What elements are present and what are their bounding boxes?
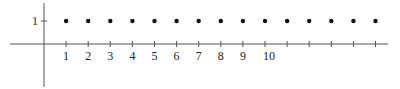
- data-point: [263, 19, 267, 23]
- x-tick-label: 8: [218, 49, 224, 63]
- data-point: [373, 19, 377, 23]
- x-tick-label: 10: [263, 49, 275, 63]
- data-point: [130, 19, 134, 23]
- data-point: [86, 19, 90, 23]
- data-point: [197, 19, 201, 23]
- x-tick-label: 5: [152, 49, 158, 63]
- data-point: [219, 19, 223, 23]
- x-tick-label: 6: [174, 49, 180, 63]
- data-point: [241, 19, 245, 23]
- data-point: [329, 19, 333, 23]
- y-tick-label: 1: [32, 14, 38, 28]
- x-tick-label: 7: [196, 49, 202, 63]
- data-point: [307, 19, 311, 23]
- x-tick-label: 3: [107, 49, 113, 63]
- data-point: [351, 19, 355, 23]
- data-point: [174, 19, 178, 23]
- data-points: [64, 19, 378, 23]
- constant-sequence-plot: 1 12345678910: [0, 0, 400, 89]
- x-tick-label: 4: [129, 49, 135, 63]
- x-tick-label: 1: [63, 49, 69, 63]
- x-tick-label: 9: [240, 49, 246, 63]
- data-point: [285, 19, 289, 23]
- data-point: [152, 19, 156, 23]
- y-ticks: 1: [32, 14, 47, 28]
- data-point: [64, 19, 68, 23]
- x-tick-label: 2: [85, 49, 91, 63]
- data-point: [108, 19, 112, 23]
